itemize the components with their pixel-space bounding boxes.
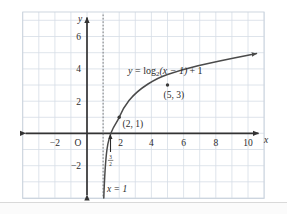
point-label-2-1: (2, 1) (123, 119, 144, 130)
axes (26, 18, 259, 196)
svg-text:y=log2(x − 1)+1: y=log2(x − 1)+1 (127, 65, 202, 77)
y-tick-label-2: 2 (76, 97, 81, 107)
y-tick-label-4: 4 (76, 64, 81, 74)
grid-lines (23, 12, 264, 199)
equation-constant: 1 (197, 65, 202, 76)
graph-canvas: −2 2 4 6 8 10 6 4 2 −2 O x y (2, 1) (5, … (0, 0, 287, 214)
y-axis-label: y (77, 14, 83, 24)
equation-equals: = (135, 65, 141, 76)
x-tick-label-4: 4 (149, 138, 154, 148)
grid-frame (23, 12, 264, 199)
point-2-1 (118, 116, 121, 119)
point-label-5-3: (5, 3) (164, 90, 185, 101)
fraction-numerator: 3 (109, 154, 112, 160)
equation-plus: + (190, 65, 196, 76)
origin-label: O (75, 138, 82, 148)
y-tick-label-neg2: −2 (71, 161, 81, 171)
asymptote-label: x = 1 (106, 184, 127, 194)
y-tick-label-6: 6 (76, 32, 81, 42)
equation-log: log (143, 65, 156, 76)
equation-label: y=log2(x − 1)+1 (127, 65, 202, 77)
equation-argument: (x − 1) (159, 65, 188, 77)
fraction-denominator: 2 (109, 161, 112, 167)
log-function-graph-figure: −2 2 4 6 8 10 6 4 2 −2 O x y (2, 1) (5, … (0, 0, 287, 214)
point-5-3 (166, 83, 169, 86)
x-tick-label-10: 10 (243, 138, 253, 148)
x-tick-label-8: 8 (213, 138, 218, 148)
footer-band (0, 202, 287, 214)
x-tick-label-2: 2 (118, 138, 123, 148)
x-tick-label-neg2: −2 (50, 138, 60, 148)
x-axis-label: x (263, 135, 269, 145)
equation-lhs: y (127, 65, 133, 76)
x-tick-label-6: 6 (181, 138, 186, 148)
